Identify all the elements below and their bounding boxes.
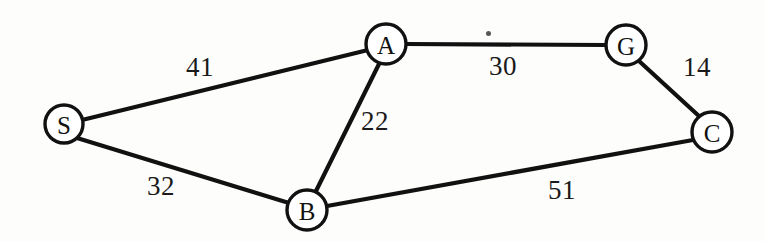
edge-weight-B-C: 51: [548, 177, 576, 204]
graph-diagram-canvas: S A G C B 41 30 14 22 32 51: [0, 0, 765, 242]
edge-S-B: [77, 138, 289, 203]
graph-node-B[interactable]: B: [287, 190, 327, 230]
edge-weight-S-B: 32: [147, 173, 175, 200]
node-label-C: C: [704, 120, 721, 147]
node-label-B: B: [299, 198, 316, 225]
edge-weight-A-B: 22: [361, 108, 389, 135]
edge-S-A: [82, 50, 368, 120]
edge-weight-S-A: 41: [186, 54, 214, 81]
edge-A-G: [406, 44, 606, 45]
scan-speck-artifact: [486, 31, 491, 36]
node-label-S: S: [57, 112, 71, 139]
node-label-A: A: [377, 32, 395, 59]
edge-weight-A-G: 30: [489, 53, 517, 80]
graph-node-A[interactable]: A: [366, 24, 406, 64]
edge-weight-G-C: 14: [683, 54, 711, 81]
graph-node-S[interactable]: S: [45, 105, 83, 143]
edge-B-C: [327, 140, 693, 206]
node-label-G: G: [617, 33, 635, 60]
graph-node-C[interactable]: C: [692, 112, 732, 152]
graph-node-G[interactable]: G: [606, 25, 646, 65]
